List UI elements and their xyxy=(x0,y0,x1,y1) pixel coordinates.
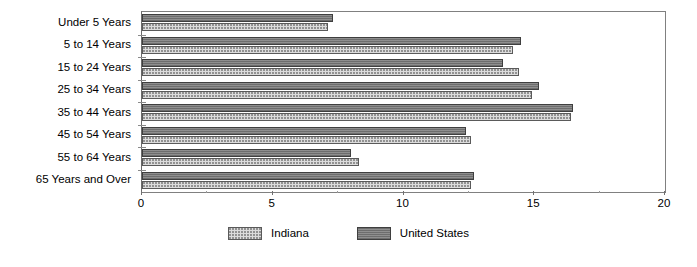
x-axis-tick xyxy=(533,191,534,195)
category-label: 55 to 64 Years xyxy=(0,151,131,163)
bar-group xyxy=(142,14,665,35)
bar-united-states xyxy=(142,104,573,112)
bar-united-states xyxy=(142,82,539,90)
plot-area xyxy=(141,11,666,193)
legend-swatch-icon xyxy=(228,227,262,240)
x-axis-tick xyxy=(141,191,142,195)
category-axis-tick xyxy=(138,125,146,126)
category-axis-tick xyxy=(138,80,146,81)
bar-united-states xyxy=(142,37,521,45)
bar-group xyxy=(142,104,665,125)
category-label: 45 to 54 Years xyxy=(0,128,131,140)
legend-label: United States xyxy=(400,227,469,240)
category-axis: Under 5 Years5 to 14 Years15 to 24 Years… xyxy=(0,11,136,191)
legend-label: Indiana xyxy=(271,227,309,240)
category-label: 25 to 34 Years xyxy=(0,83,131,95)
bar-united-states xyxy=(142,59,503,67)
bar-indiana xyxy=(142,113,571,121)
x-axis-tick xyxy=(403,191,404,195)
x-axis-minor-tick xyxy=(206,191,207,193)
bar-united-states xyxy=(142,172,474,180)
bar-group xyxy=(142,172,665,193)
bar-group xyxy=(142,59,665,80)
legend-item-indiana[interactable]: Indiana xyxy=(228,227,309,240)
bar-united-states xyxy=(142,149,351,157)
bar-group xyxy=(142,37,665,58)
category-axis-tick xyxy=(138,57,146,58)
category-label: Under 5 Years xyxy=(0,16,131,28)
category-label: 35 to 44 Years xyxy=(0,106,131,118)
x-axis-tick-label: 10 xyxy=(396,197,409,210)
category-label: 15 to 24 Years xyxy=(0,61,131,73)
x-axis-tick-label: 20 xyxy=(658,197,671,210)
bar-indiana xyxy=(142,136,471,144)
bar-united-states xyxy=(142,14,333,22)
legend-swatch-icon xyxy=(357,227,391,240)
bar-indiana xyxy=(142,181,471,189)
x-axis-minor-tick xyxy=(337,191,338,193)
category-label: 65 Years and Over xyxy=(0,173,131,185)
category-axis-tick xyxy=(138,102,146,103)
bar-indiana xyxy=(142,23,328,31)
bar-united-states xyxy=(142,127,466,135)
category-axis-tick xyxy=(138,170,146,171)
category-label: 5 to 14 Years xyxy=(0,38,131,50)
category-axis-tick xyxy=(138,35,146,36)
x-axis-minor-tick xyxy=(468,191,469,193)
bar-group xyxy=(142,82,665,103)
bar-indiana xyxy=(142,158,359,166)
x-axis-tick-label: 5 xyxy=(269,197,275,210)
bar-group xyxy=(142,127,665,148)
bar-indiana xyxy=(142,91,532,99)
x-axis-minor-tick xyxy=(599,191,600,193)
legend-item-us[interactable]: United States xyxy=(357,227,469,240)
x-axis-tick-label: 15 xyxy=(527,197,540,210)
bar-chart: Under 5 Years5 to 14 Years15 to 24 Years… xyxy=(0,0,697,267)
value-axis: 05101520 xyxy=(141,191,664,217)
category-axis-tick xyxy=(138,147,146,148)
bar-indiana xyxy=(142,68,519,76)
chart-legend: IndianaUnited States xyxy=(0,222,697,244)
x-axis-tick xyxy=(664,191,665,195)
bar-group xyxy=(142,149,665,170)
x-axis-tick-label: 0 xyxy=(138,197,144,210)
x-axis-tick xyxy=(272,191,273,195)
bar-indiana xyxy=(142,46,513,54)
